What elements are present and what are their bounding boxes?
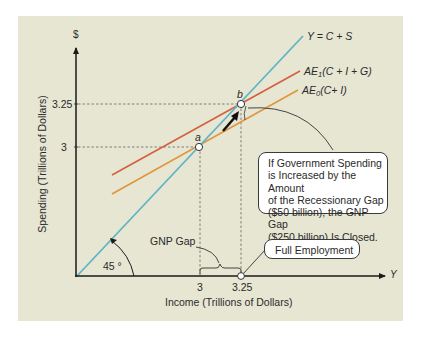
full-employment-callout: Full Employment	[264, 239, 360, 259]
callout-line: of the Recessionary Gap	[268, 194, 387, 206]
x-axis-label: Income (Trillions of Dollars)	[165, 297, 292, 308]
point-a	[195, 143, 202, 150]
callout-line: If Government Spending	[268, 157, 387, 169]
y-tick-325: 3.25	[52, 99, 72, 110]
government-spending-callout: If Government Spending is Increased by t…	[258, 152, 388, 214]
point-a-label: a	[195, 132, 201, 143]
y-axis-symbol: $	[73, 30, 79, 40]
y-axis-label: Spending (Trillions of Dollars)	[36, 84, 48, 244]
x-tick-3: 3	[197, 282, 203, 293]
point-b	[237, 100, 244, 107]
full-employment-point	[238, 273, 245, 280]
x-axis-symbol: Y	[390, 270, 397, 280]
x-tick-325: 3.25	[232, 282, 252, 293]
callout-line: is Increased by the Amount	[268, 169, 387, 194]
point-b-label: b	[237, 89, 243, 100]
gnp-gap-label: GNP Gap	[150, 236, 195, 247]
angle-label: 45 °	[103, 261, 122, 272]
y-line-label: Y = C + S	[307, 31, 352, 42]
y-tick-3: 3	[61, 142, 67, 153]
gnp-gap-brace	[200, 264, 241, 274]
callout-line: ($50 billion), the GNP Gap	[268, 206, 387, 231]
ae0-label: AE0(C+ I)	[302, 85, 347, 98]
ae1-label: AE1(C + I + G)	[304, 66, 372, 79]
full-employment-text: Full Employment	[275, 244, 353, 256]
